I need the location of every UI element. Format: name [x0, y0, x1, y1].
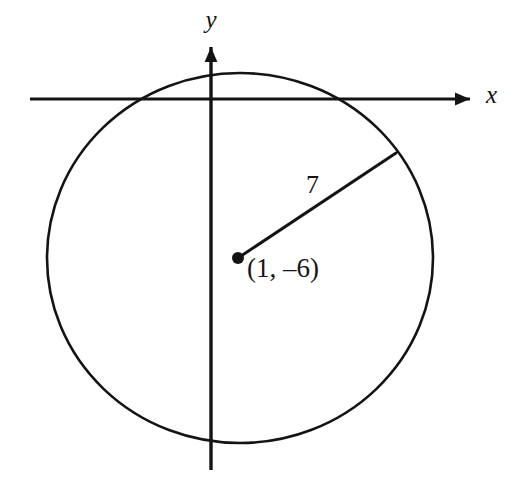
radius-segment	[238, 153, 396, 258]
center-point-dot	[232, 252, 244, 264]
figure-canvas: y x 7 (1, –6)	[0, 0, 516, 488]
y-axis-label: y	[202, 6, 217, 33]
radius-length-label: 7	[306, 170, 319, 199]
circle-coordinate-diagram: y x 7 (1, –6)	[0, 0, 516, 488]
center-coordinate-label: (1, –6)	[247, 253, 319, 283]
x-axis-label: x	[485, 81, 497, 108]
